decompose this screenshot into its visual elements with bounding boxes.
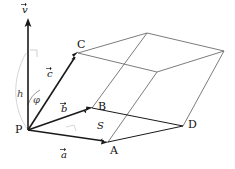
vector-c-text: c	[47, 68, 53, 79]
edge-side-apex-B	[92, 33, 147, 108]
edge-side-inner-A	[108, 72, 157, 142]
figure-canvas: v c b a h	[0, 0, 235, 169]
right-angle-marker-base	[66, 125, 76, 131]
vector-c-label: c	[47, 69, 53, 79]
vector-b-text: b	[61, 103, 67, 114]
vector-v-label: v	[22, 5, 28, 15]
point-label-D: D	[188, 119, 197, 130]
point-label-B: B	[98, 101, 106, 112]
vector-a-arrowhead	[100, 138, 109, 144]
vector-a-text: a	[61, 149, 67, 160]
edge-top-inner-C	[78, 53, 157, 72]
vector-b-label: b	[61, 104, 67, 114]
edge-base-A-D	[108, 126, 183, 142]
vector-a-shaft	[28, 130, 104, 141]
vector-b-shaft	[28, 109, 88, 130]
angle-label-phi: φ	[33, 95, 40, 105]
height-label: h	[17, 89, 23, 99]
edge-top-C-apex	[78, 33, 147, 53]
vector-v-text: v	[22, 4, 28, 15]
point-label-C: C	[77, 39, 85, 50]
vector-a-label: a	[61, 150, 67, 160]
point-label-P: P	[15, 124, 22, 135]
right-angle-marker-height	[30, 50, 37, 57]
area-label-S: S	[97, 121, 104, 131]
edge-top-apex-far	[147, 33, 224, 51]
point-label-A: A	[110, 145, 118, 156]
